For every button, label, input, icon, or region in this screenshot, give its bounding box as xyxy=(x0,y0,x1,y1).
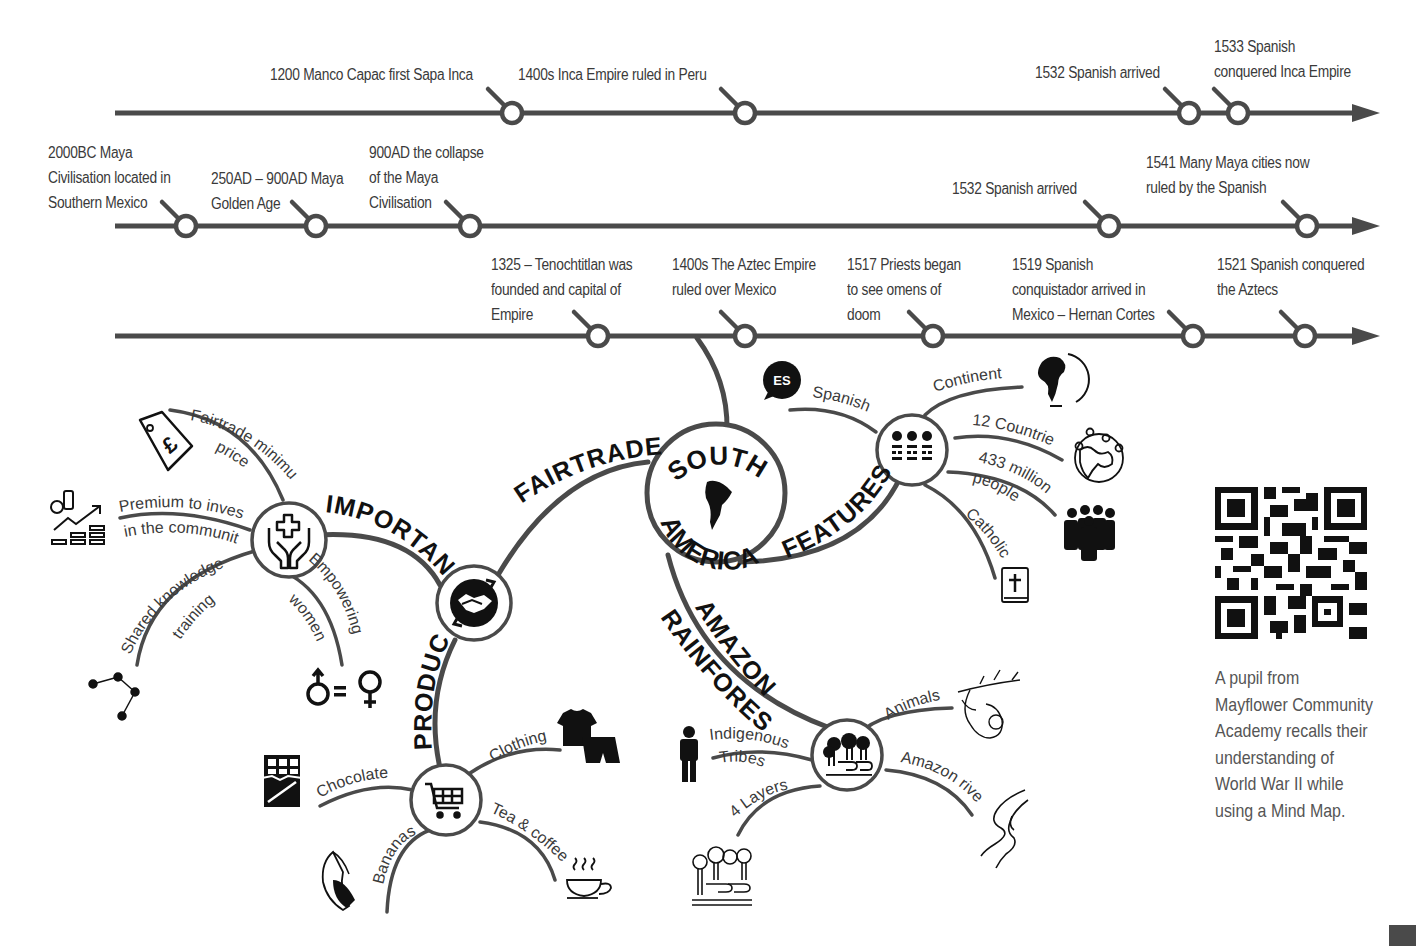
importance-label-empowering-2: women xyxy=(285,589,330,643)
investment-growth-icon xyxy=(51,491,104,544)
gender-equality-icon xyxy=(308,670,380,708)
timeline-marker xyxy=(1228,103,1248,123)
timeline-arrow-icon xyxy=(1352,104,1380,122)
globe-icon xyxy=(1038,354,1089,406)
tribesman-icon xyxy=(680,726,698,782)
bible-icon xyxy=(1002,568,1028,602)
timeline-event-label: 1532 Spanish arrived xyxy=(1035,60,1160,85)
importance-label-shared: Shared knowledge & xyxy=(0,0,230,656)
branch-label-importance: IMPORTANCE xyxy=(0,0,461,581)
amazon-label-indigenous: Indigenous xyxy=(708,725,791,752)
svg-text:ES: ES xyxy=(773,373,791,388)
sloth-icon xyxy=(958,670,1020,738)
importance-label-premium-2: in the community xyxy=(0,0,241,547)
fairtrade-node xyxy=(437,566,511,640)
pound-tag-icon: £ xyxy=(140,412,192,470)
timeline-event-label: 250AD – 900AD Maya Golden Age xyxy=(211,166,343,216)
timeline-event-label: 1325 – Tenochtitlan was founded and capi… xyxy=(491,252,632,327)
timeline-event-label: 1521 Spanish conquered the Aztecs xyxy=(1217,252,1364,302)
timeline-marker xyxy=(306,216,326,236)
clothing-icon xyxy=(557,709,620,763)
timeline-event-label: 1400s Inca Empire ruled in Peru xyxy=(518,62,707,87)
timeline-marker xyxy=(923,326,943,346)
banana-icon xyxy=(323,852,355,910)
product-label-tea: Tea & coffee xyxy=(489,799,572,864)
handshake-icon xyxy=(450,579,498,627)
importance-label-minimum-price: Fairtrade minimum xyxy=(0,0,301,482)
caption-text: A pupil from Mayflower Community Academy… xyxy=(1215,665,1383,824)
qr-code-icon xyxy=(1215,484,1367,642)
timeline-event-label: 1200 Manco Capac first Sapa Inca xyxy=(270,62,473,87)
feature-label-catholic: Catholic xyxy=(963,504,1014,560)
mind-map-canvas: FAIRTRADE FEATURES AMAZON RAINFOREST IMP… xyxy=(0,0,1416,946)
network-icon xyxy=(89,673,139,720)
timeline-event-label: 900AD the collapse of the Maya Civilisat… xyxy=(369,140,484,215)
chocolate-icon xyxy=(262,755,302,807)
products-node xyxy=(411,765,481,835)
timeline-marker xyxy=(176,216,196,236)
world-pins-icon xyxy=(1075,429,1123,483)
timeline-event-label: 1519 Spanish conquistador arrived in Mex… xyxy=(1012,252,1155,327)
timeline-event-label: 1400s The Aztec Empire ruled over Mexico xyxy=(672,252,816,302)
amazon-label-layers: 4 Layers xyxy=(726,776,789,821)
product-label-chocolate: Chocolate xyxy=(313,764,388,801)
timeline-marker xyxy=(1099,216,1119,236)
tea-cup-icon xyxy=(567,858,611,898)
timeline-arrow-icon xyxy=(1352,327,1380,345)
timeline-event-label: 1532 Spanish arrived xyxy=(952,176,1077,201)
timeline-marker xyxy=(502,103,522,123)
timeline-marker xyxy=(1179,103,1199,123)
amazon-label-animals: Animals xyxy=(881,686,942,722)
timeline-arrow-icon xyxy=(1352,217,1380,235)
branch-label-fairtrade: FAIRTRADE xyxy=(509,431,664,508)
timeline-event-label: 1533 Spanish conquered Inca Empire xyxy=(1214,34,1351,84)
river-icon xyxy=(981,790,1028,868)
timeline-aztec xyxy=(115,312,1380,346)
timeline-marker xyxy=(1183,326,1203,346)
importance-label-premium: Premium to invest xyxy=(0,0,246,522)
forest-layers-icon xyxy=(692,847,752,905)
page-corner-tab xyxy=(1389,925,1416,946)
timeline-event-label: 1541 Many Maya cities now ruled by the S… xyxy=(1146,150,1309,200)
amazon-node xyxy=(812,720,882,790)
timeline-event-label: 1517 Priests began to see omens of doom xyxy=(847,252,961,327)
timeline-marker xyxy=(460,216,480,236)
importance-label-empowering: Empowering xyxy=(306,549,366,635)
timeline-marker xyxy=(735,326,755,346)
crowd-icon xyxy=(1064,505,1115,561)
es-speech-bubble-icon: ES xyxy=(763,361,801,400)
timeline-marker xyxy=(1297,216,1317,236)
mind-map-page: FAIRTRADE FEATURES AMAZON RAINFOREST IMP… xyxy=(0,0,1416,946)
timelines-group xyxy=(115,89,1380,346)
timeline-marker xyxy=(588,326,608,346)
product-label-clothing: Clothing xyxy=(486,727,548,765)
timeline-marker xyxy=(735,103,755,123)
timeline-marker xyxy=(1295,326,1315,346)
timeline-event-label: 2000BC Maya Civilisation located in Sout… xyxy=(48,140,171,215)
timeline-inca xyxy=(115,89,1380,123)
